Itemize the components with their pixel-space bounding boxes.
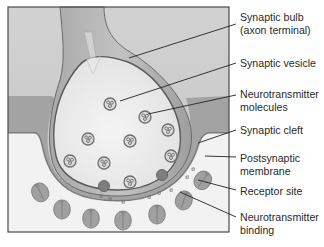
label-neurotransmitter-molecules: Neurotransmitter molecules <box>240 88 319 113</box>
label-line: Neurotransmitter <box>240 88 319 101</box>
label-line: membrane <box>240 165 300 178</box>
label-postsynaptic-membrane: Postsynaptic membrane <box>240 152 300 177</box>
synapse-diagram: Synaptic bulb (axon terminal) Synaptic v… <box>0 0 324 247</box>
label-line: Postsynaptic <box>240 152 300 165</box>
label-line: Synaptic bulb <box>240 11 311 24</box>
label-line: binding <box>240 224 319 237</box>
label-line: Neurotransmitter <box>240 211 319 224</box>
label-synaptic-vesicle: Synaptic vesicle <box>240 57 316 70</box>
label-line: Synaptic vesicle <box>240 57 316 70</box>
label-synaptic-bulb: Synaptic bulb (axon terminal) <box>240 11 311 36</box>
label-receptor-site: Receptor site <box>240 185 302 198</box>
label-line: Receptor site <box>240 185 302 198</box>
label-neurotransmitter-binding: Neurotransmitter binding <box>240 211 319 236</box>
label-line: Synaptic cleft <box>240 124 303 137</box>
label-line: (axon terminal) <box>240 24 311 37</box>
label-line: molecules <box>240 101 319 114</box>
label-synaptic-cleft: Synaptic cleft <box>240 124 303 137</box>
